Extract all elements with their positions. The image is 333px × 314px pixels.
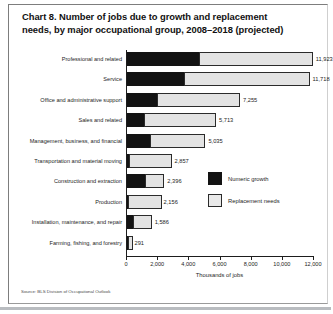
stacked-bar	[127, 154, 172, 168]
x-axis-tick-label: 8,000	[244, 261, 258, 267]
bar-segment-replacement	[129, 154, 172, 168]
bar-value-label: 291	[135, 240, 145, 246]
bar-value-label: 2,156	[164, 199, 178, 205]
bar-row: Office and administrative support7,255	[0, 93, 331, 107]
category-label: Production	[95, 198, 122, 205]
stacked-bar	[127, 113, 216, 127]
category-label: Office and administrative support	[40, 96, 122, 103]
bar-segment-replacement	[128, 236, 133, 250]
category-label: Service	[103, 76, 122, 83]
legend-swatch-replacement-icon	[208, 194, 222, 207]
legend-label-replacement: Replacement needs	[228, 198, 280, 204]
category-label: Installation, maintenance, and repair	[32, 219, 122, 226]
x-axis-tick	[251, 256, 252, 260]
bar-segment-growth	[127, 72, 185, 86]
bar-segment-replacement	[145, 174, 165, 188]
bar-row: Management, business, and financial5,035	[0, 134, 331, 148]
bar-row: Sales and related5,713	[0, 113, 331, 127]
bar-segment-growth	[127, 134, 151, 148]
legend-item-replacement-needs: Replacement needs	[208, 194, 318, 207]
bar-segment-replacement	[144, 113, 216, 127]
category-label: Transportation and material moving	[34, 158, 122, 165]
stacked-bar	[127, 195, 162, 209]
x-axis-tick	[313, 256, 314, 260]
bar-segment-replacement	[184, 72, 309, 86]
x-axis-tick-label: 0	[124, 261, 127, 267]
stacked-bar	[127, 236, 133, 250]
stacked-bar	[127, 134, 205, 148]
x-axis-tick-label: 4,000	[181, 261, 195, 267]
x-axis-tick	[282, 256, 283, 260]
source-note: Source: BLS Division of Occupational Out…	[21, 289, 110, 294]
bar-value-label: 11,923	[316, 56, 333, 62]
x-axis-tick	[157, 256, 158, 260]
bar-segment-replacement	[199, 52, 313, 66]
x-axis-tick	[220, 256, 221, 260]
bar-value-label: 2,857	[175, 158, 189, 164]
legend-item-numeric-growth: Numeric growth	[208, 172, 318, 185]
stacked-bar	[127, 174, 164, 188]
bar-value-label: 5,035	[208, 138, 222, 144]
bar-segment-growth	[127, 174, 146, 188]
bar-row: Installation, maintenance, and repair1,5…	[0, 215, 331, 229]
page-bottom-edge	[0, 307, 331, 310]
x-axis-tick	[188, 256, 189, 260]
x-axis-tick-label: 12,000	[304, 261, 321, 267]
bar-row: Service11,718	[0, 72, 331, 86]
x-axis-tick-label: 6,000	[213, 261, 227, 267]
category-label: Sales and related	[78, 117, 122, 124]
bar-segment-replacement	[133, 215, 151, 229]
x-axis-tick	[126, 256, 127, 260]
stacked-bar	[127, 215, 152, 229]
category-label: Farming, fishing, and forestry	[50, 239, 122, 246]
legend-swatch-growth-icon	[208, 172, 222, 185]
bar-value-label: 1,586	[155, 219, 169, 225]
bar-segment-growth	[127, 93, 158, 107]
x-axis-tick-label: 2,000	[150, 261, 164, 267]
bar-row: Transportation and material moving2,857	[0, 154, 331, 168]
bar-value-label: 11,718	[313, 76, 330, 82]
bar-row: Farming, fishing, and forestry291	[0, 236, 331, 250]
bar-value-label: 2,396	[167, 178, 181, 184]
bar-segment-growth	[127, 113, 145, 127]
bar-segment-replacement	[150, 134, 206, 148]
x-axis-tick-label: 10,000	[273, 261, 290, 267]
bar-value-label: 7,255	[243, 97, 257, 103]
stacked-bar	[127, 72, 310, 86]
bar-value-label: 5,713	[219, 117, 233, 123]
chart-legend: Numeric growth Replacement needs	[208, 172, 318, 216]
x-axis-title: Thousands of jobs	[126, 272, 313, 278]
stacked-bar	[127, 52, 313, 66]
category-label: Management, business, and financial	[30, 137, 122, 144]
stacked-bar	[127, 93, 240, 107]
bar-row: Professional and related11,923	[0, 52, 331, 66]
category-label: Construction and extraction	[54, 178, 122, 185]
bar-segment-replacement	[128, 195, 162, 209]
bar-segment-growth	[127, 52, 200, 66]
bar-segment-replacement	[157, 93, 240, 107]
legend-label-growth: Numeric growth	[228, 176, 269, 182]
category-label: Professional and related	[62, 56, 122, 63]
